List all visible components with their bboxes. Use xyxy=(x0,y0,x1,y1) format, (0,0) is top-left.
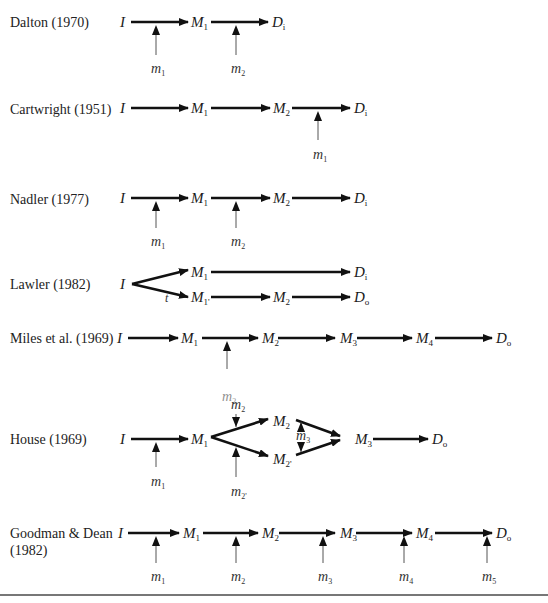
node-m2: M2 xyxy=(262,331,279,351)
arrowhead-icon xyxy=(400,536,408,546)
moderator-m1-base: m xyxy=(151,569,161,584)
node-m2prime-subscript: 2' xyxy=(286,459,292,469)
node-do-subscript: o xyxy=(365,297,370,307)
node-i: I xyxy=(120,277,125,292)
node-m2-subscript: 2 xyxy=(286,421,291,431)
row-label-miles: Miles et al. (1969) xyxy=(10,330,113,347)
moderator-m1-subscript: 1 xyxy=(161,482,165,491)
node-m3-subscript: 3 xyxy=(353,533,358,543)
node-i: I xyxy=(120,15,125,30)
moderator-m1-base: m xyxy=(151,61,161,76)
arrow-icon xyxy=(132,284,188,297)
moderator-m2-base: m xyxy=(231,234,241,249)
path-annotation: t xyxy=(165,291,168,305)
moderator-m1: m1 xyxy=(151,570,165,589)
node-m1-base: M xyxy=(181,330,194,346)
node-m3-base: M xyxy=(340,330,353,346)
node-m1-base: M xyxy=(191,190,204,206)
moderator-m2: m2 xyxy=(231,235,245,254)
node-di-subscript: i xyxy=(283,22,286,32)
node-m4-subscript: 4 xyxy=(429,533,434,543)
moderator-m1-base: m xyxy=(151,474,161,489)
node-m1: M1 xyxy=(191,101,208,121)
moderator-m3: m3 xyxy=(318,570,332,589)
arrows-layer xyxy=(128,22,492,533)
node-m4-base: M xyxy=(416,525,429,541)
moderator-m2prime-base: m xyxy=(231,484,241,499)
node-di-base: D xyxy=(354,264,365,280)
moderator-m2-base: m xyxy=(231,61,241,76)
moderator-m1: m1 xyxy=(151,475,165,494)
node-m1-base: M xyxy=(191,431,204,447)
moderator-m2-base: m xyxy=(231,569,241,584)
node-i: I xyxy=(120,432,125,447)
node-m2-subscript: 2 xyxy=(275,338,280,348)
node-m1-base: M xyxy=(191,264,204,280)
node-m2prime-base: M xyxy=(273,451,286,467)
moderator-m1-subscript: 1 xyxy=(161,577,165,586)
node-do: Do xyxy=(432,432,447,452)
node-m3-base: M xyxy=(355,431,368,447)
moderator-m2: m2 xyxy=(231,62,245,81)
node-m3: M3 xyxy=(355,432,372,452)
node-i-base: I xyxy=(118,525,123,541)
bottom-rule xyxy=(0,594,548,596)
node-di-subscript: i xyxy=(365,272,368,282)
node-do-base: D xyxy=(354,289,365,305)
arrowhead-icon xyxy=(152,442,160,452)
node-i-base: I xyxy=(120,190,125,206)
row-label-nadler: Nadler (1977) xyxy=(10,191,89,208)
row-label-house: House (1969) xyxy=(10,431,87,448)
node-m1-subscript: 1 xyxy=(204,22,209,32)
node-m1prime-base: M xyxy=(191,289,204,305)
moderator-m5-base: m xyxy=(482,569,492,584)
node-m2: M2 xyxy=(273,414,290,434)
node-m1: M1 xyxy=(191,265,208,285)
moderator-m3-subscript: 3 xyxy=(306,436,310,445)
arrowhead-icon xyxy=(152,201,160,211)
node-di-subscript: i xyxy=(365,198,368,208)
node-m1: M1 xyxy=(191,15,208,35)
moderator-m5: m5 xyxy=(482,570,496,589)
arrowhead-icon xyxy=(152,536,160,546)
node-i-base: I xyxy=(120,100,125,116)
node-m1-subscript: 1 xyxy=(204,272,209,282)
node-i: I xyxy=(120,191,125,206)
node-m2-base: M xyxy=(273,289,286,305)
moderator-m2-base: m xyxy=(231,397,241,412)
node-m2-base: M xyxy=(273,100,286,116)
row-label-lawler: Lawler (1982) xyxy=(10,276,90,293)
node-i-base: I xyxy=(120,276,125,292)
node-do: Do xyxy=(496,331,511,351)
node-m2-base: M xyxy=(262,330,275,346)
moderator-m1-subscript: 1 xyxy=(323,155,327,164)
node-m1-base: M xyxy=(183,525,196,541)
node-m2: M2 xyxy=(262,526,279,546)
moderator-m5-subscript: 5 xyxy=(492,577,496,586)
arrowhead-icon xyxy=(232,25,240,35)
arrowhead-icon xyxy=(152,25,160,35)
moderator-m3-base: m xyxy=(318,569,328,584)
node-m2-subscript: 2 xyxy=(286,108,291,118)
node-m1: M1 xyxy=(183,526,200,546)
row-label-cartwright: Cartwright (1951) xyxy=(10,101,111,118)
moderator-m2: m2 xyxy=(231,570,245,589)
node-i: I xyxy=(120,101,125,116)
arrow-icon xyxy=(211,419,268,437)
moderator-m2-subscript: 2 xyxy=(241,405,245,414)
moderator-m2-subscript: 2 xyxy=(241,577,245,586)
moderator-m3-subscript: 3 xyxy=(328,577,332,586)
node-i-base: I xyxy=(117,330,122,346)
node-m2: M2 xyxy=(273,101,290,121)
node-di-base: D xyxy=(354,190,365,206)
node-m3-base: M xyxy=(340,525,353,541)
node-m1-base: M xyxy=(191,14,204,30)
node-m2-base: M xyxy=(273,190,286,206)
moderator-m4-base: m xyxy=(399,569,409,584)
row-label-line-1: Goodman & Dean xyxy=(10,525,113,542)
moderator-m1-base: m xyxy=(151,234,161,249)
node-do: Do xyxy=(496,526,511,546)
node-m2: M2 xyxy=(273,290,290,310)
row-label-goodman-dean: Goodman & Dean(1982) xyxy=(10,525,113,559)
node-di: Di xyxy=(354,191,367,211)
